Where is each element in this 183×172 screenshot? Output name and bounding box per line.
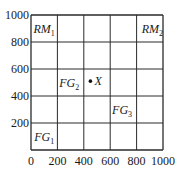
y-tick-label: 1000 — [5, 8, 29, 22]
region-label-rm2: RM2 — [141, 22, 163, 38]
point-marker-x — [89, 79, 93, 83]
region-label-fg3: FG3 — [111, 103, 132, 119]
x-axis-ticks: 02004006008001000 — [28, 154, 175, 168]
x-tick-label: 1000 — [151, 154, 175, 168]
x-tick-label: 0 — [28, 154, 34, 168]
x-tick-label: 800 — [128, 154, 146, 168]
y-tick-label: 200 — [11, 116, 29, 130]
point-label-x: X — [93, 74, 102, 88]
x-tick-label: 600 — [101, 154, 119, 168]
y-tick-label: 600 — [11, 62, 29, 76]
y-axis-ticks: 2004006008001000 — [5, 8, 29, 130]
region-label-fg1: FG1 — [33, 130, 54, 146]
data-points: X — [89, 74, 103, 88]
region-label-fg2: FG2 — [58, 76, 79, 92]
x-tick-label: 400 — [75, 154, 93, 168]
y-tick-label: 400 — [11, 89, 29, 103]
x-tick-label: 200 — [48, 154, 66, 168]
y-tick-label: 800 — [11, 35, 29, 49]
region-label-rm1: RM1 — [33, 22, 55, 38]
facility-location-grid: 02004006008001000 2004006008001000 RM1RM… — [0, 0, 183, 172]
